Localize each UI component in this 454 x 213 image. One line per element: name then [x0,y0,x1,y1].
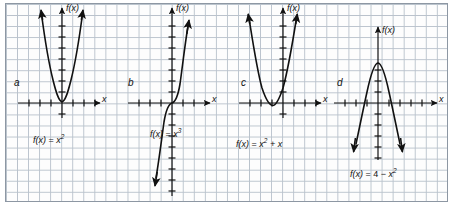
panel-b-equation-fn: f(x) [150,129,163,139]
panel-c-equation: f(x) = x2 + x [236,138,282,149]
panel-a-equation-fn: f(x) [33,135,46,145]
panel-a-x-axis-label: x [102,95,107,104]
panel-d-equation-minus: − [381,169,386,179]
function-graphs-figure: a b c d f(x) f(x) f(x) f(x) x x x x f(x)… [0,0,454,213]
panel-b-equation-equals: = [166,129,171,139]
panel-d-equation-lead: 4 [373,169,378,179]
panel-d-equation-exponent: 2 [393,167,397,174]
panel-letter-c: c [241,78,246,88]
panel-d-x-axis-label: x [439,95,444,104]
panel-b-equation: f(x) = x3 [150,128,181,139]
panel-letter-b: b [128,78,134,88]
panel-a-equation-equals: = [49,135,54,145]
panel-a-equation: f(x) = x2 [33,134,64,145]
panel-c-equation-fn: f(x) [236,139,249,149]
panel-c-equation-equals: = [252,139,257,149]
panel-a-y-axis-label: f(x) [66,4,79,13]
panel-d-equation: f(x) = 4 − x2 [350,168,397,179]
panel-d-equation-fn: f(x) [350,169,363,179]
panel-c-equation-tail: + x [270,139,282,149]
panel-d-equation-equals: = [366,169,371,179]
panel-letter-a: a [14,78,20,88]
panel-c-y-axis-label: f(x) [287,4,300,13]
panel-b-y-axis-label: f(x) [176,4,189,13]
panel-b-x-axis-label: x [212,95,217,104]
panel-d-y-axis-label: f(x) [382,26,395,35]
panel-b-equation-exponent: 3 [178,127,182,134]
panel-c-equation-exponent: 2 [264,137,268,144]
panel-letter-d: d [337,78,343,88]
panel-c-x-axis-label: x [323,95,328,104]
panel-a-equation-exponent: 2 [61,133,65,140]
